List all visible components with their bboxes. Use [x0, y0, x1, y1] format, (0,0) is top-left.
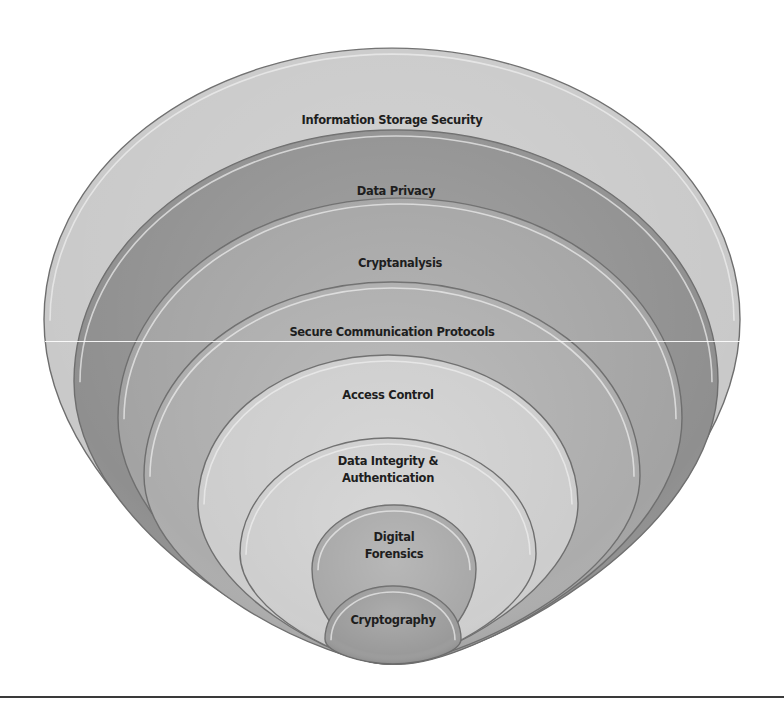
horizontal-rule — [0, 696, 784, 698]
layers-group — [44, 48, 740, 664]
layer-label-data-privacy: Data Privacy — [357, 184, 436, 198]
layer-label-secure-communication-protocols: Secure Communication Protocols — [289, 325, 495, 339]
layer-label-information-storage-security: Information Storage Security — [302, 113, 484, 127]
layer-label-cryptanalysis: Cryptanalysis — [358, 256, 443, 270]
layer-label-access-control: Access Control — [342, 388, 433, 402]
nested-ellipse-diagram: Information Storage SecurityData Privacy… — [0, 0, 784, 708]
scan-line-artifact — [45, 341, 740, 342]
layer-label-cryptography: Cryptography — [350, 613, 436, 627]
